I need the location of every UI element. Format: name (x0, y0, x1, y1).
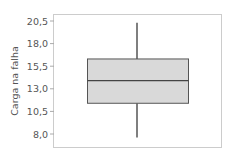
y-axis-label: Carga na falha (9, 46, 20, 116)
box-plot-chart: 8,010,513,015,518,020,5 Carga na falha (0, 0, 234, 157)
y-tick-label: 13,0 (27, 83, 48, 94)
y-tick-label: 18,0 (27, 38, 48, 49)
y-tick-label: 15,5 (27, 61, 48, 72)
y-tick-label: 10,5 (27, 106, 48, 117)
y-axis-ticks: 8,010,513,015,518,020,5 (27, 16, 54, 140)
y-tick-label: 20,5 (27, 16, 48, 27)
y-tick-label: 8,0 (33, 129, 48, 140)
